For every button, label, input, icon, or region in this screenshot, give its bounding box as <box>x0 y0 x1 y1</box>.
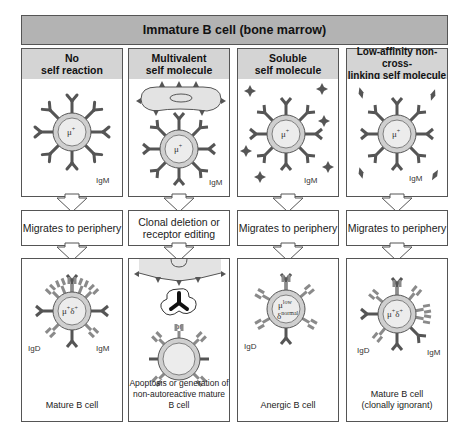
svg-text:IgM: IgM <box>427 348 441 357</box>
outcome-caption: Apoptosis or generation of non-autoreact… <box>129 378 229 411</box>
bottom-panel: μlow δnormal IgD Anergic B cell <box>237 258 339 422</box>
column-multivalent-self-molecule: Multivalent self molecule μ+ IgM <box>128 48 230 80</box>
outcome-caption: Anergic B cell <box>238 400 338 411</box>
svg-text:IgM: IgM <box>96 344 110 353</box>
bottom-panel: μ+δ+ IgD IgM Mature B cell (clonally ign… <box>346 258 448 422</box>
svg-text:IgD: IgD <box>357 346 370 355</box>
anergic-b-cell-icon: μlow δnormal IgD <box>238 259 340 423</box>
outcome-caption: Mature B cell (clonally ignorant) <box>347 389 447 411</box>
svg-text:IgM: IgM <box>304 176 318 185</box>
outcome-step: Migrates to periphery <box>237 210 339 246</box>
top-panel: μ+ IgM <box>21 79 123 197</box>
mature-b-cell-icon: μ+δ+ IgD IgM <box>22 259 124 423</box>
top-panel: μ+ IgM <box>128 79 230 197</box>
column-no-self-reaction: No self reaction μ+ IgM Migrates to peri… <box>21 48 123 80</box>
bottom-panel: or Apoptosis or generation of non-autore… <box>128 258 230 422</box>
low-affinity-self-molecule-icon: μ+ IgM <box>347 79 449 197</box>
column-header: Multivalent self molecule <box>128 48 230 80</box>
top-panel: μ+ IgM <box>237 79 339 197</box>
immature-b-cell-icon: μ+ IgM <box>22 79 124 197</box>
multivalent-self-cell-icon: μ+ IgM <box>129 79 231 197</box>
bottom-panel: μ+δ+ IgD IgM Mature B cell <box>21 258 123 422</box>
svg-text:IgM: IgM <box>209 178 223 187</box>
top-panel: μ+ IgM <box>346 79 448 197</box>
column-low-affinity-self-molecule: Low-affinity non-cross- linking self mol… <box>346 48 448 80</box>
outcome-caption: Mature B cell <box>22 400 122 411</box>
svg-text:IgM: IgM <box>409 174 423 183</box>
svg-text:IgD: IgD <box>28 344 41 353</box>
outcome-step: Migrates to periphery <box>346 210 448 246</box>
column-header: No self reaction <box>21 48 123 80</box>
column-soluble-self-molecule: Soluble self molecule μ+ Ig <box>237 48 339 80</box>
outcome-step: Migrates to periphery <box>21 210 123 246</box>
igm-label: IgM <box>96 176 110 185</box>
svg-text:IgD: IgD <box>244 342 257 351</box>
column-header: Soluble self molecule <box>237 48 339 80</box>
column-header: Low-affinity non-cross- linking self mol… <box>346 48 448 80</box>
soluble-self-molecule-icon: μ+ IgM <box>238 79 340 197</box>
diagram-title: Immature B cell (bone marrow) <box>21 15 448 45</box>
outcome-step: Clonal deletion or receptor editing <box>128 210 230 246</box>
